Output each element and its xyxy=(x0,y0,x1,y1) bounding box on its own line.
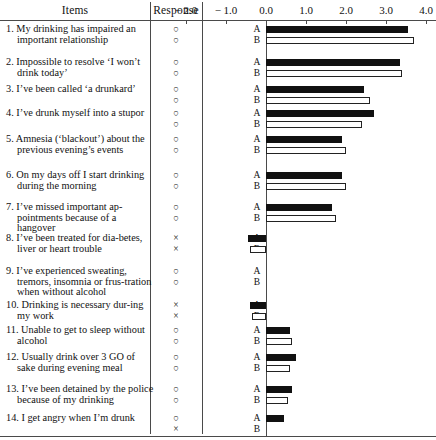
series-label-a: A xyxy=(252,170,262,180)
series-label-a: A xyxy=(252,134,262,144)
series-label-b: B xyxy=(252,95,262,105)
bar-line: A xyxy=(0,300,436,310)
bar-a xyxy=(266,327,290,334)
table-row: 10. Drinking is necessary dur-ing my wor… xyxy=(0,300,436,325)
table-row: 12. Usually drink over 3 GO of sake duri… xyxy=(0,352,436,384)
bar-line: A xyxy=(0,325,436,335)
bar-a xyxy=(250,302,266,309)
x-tick-label: − 1.0 xyxy=(215,4,238,16)
x-tick-label: 2.0 xyxy=(339,4,353,16)
bar-line: B xyxy=(0,336,436,346)
bar-b xyxy=(252,313,266,320)
bar-line: A xyxy=(0,24,436,34)
table-row: 1. My drinking has impaired an important… xyxy=(0,24,436,57)
bar-line: B xyxy=(0,277,436,287)
table-row: 6. On my days off I start drinking durin… xyxy=(0,170,436,202)
bar-line: B xyxy=(0,395,436,405)
bar-line: B xyxy=(0,35,436,45)
series-label-b: B xyxy=(252,145,262,155)
bar-b xyxy=(266,215,336,222)
table-row: 11. Unable to get to sleep without alcoh… xyxy=(0,325,436,352)
bar-b xyxy=(266,70,402,77)
chart-x-axis: − 2.0− 1.00.01.02.03.04.0 xyxy=(0,4,436,18)
bar-line: A xyxy=(0,266,436,276)
bar-a xyxy=(266,172,342,179)
table-row: 3. I’ve been called ‘a drunkard’○○AB xyxy=(0,84,436,108)
series-label-b: B xyxy=(252,277,262,287)
bar-b xyxy=(266,147,346,154)
series-label-a: A xyxy=(252,325,262,335)
x-tick-label: − 2.0 xyxy=(175,4,198,16)
series-label-a: A xyxy=(252,84,262,94)
table-row: 8. I’ve been treated for dia-betes, live… xyxy=(0,233,436,266)
bar-a xyxy=(266,386,292,393)
series-label-a: A xyxy=(252,24,262,34)
series-label-a: A xyxy=(252,352,262,362)
series-label-b: B xyxy=(252,68,262,78)
bar-b xyxy=(266,338,292,345)
bar-line: A xyxy=(0,352,436,362)
bar-line: B xyxy=(0,424,436,434)
series-label-b: B xyxy=(252,213,262,223)
bar-line: A xyxy=(0,84,436,94)
bar-a xyxy=(266,86,364,93)
table-row: 13. I’ve been detained by the police bec… xyxy=(0,384,436,413)
bar-a xyxy=(266,415,284,422)
bar-line: A xyxy=(0,233,436,243)
series-label-b: B xyxy=(252,119,262,129)
bar-a xyxy=(248,235,266,242)
series-label-b: B xyxy=(252,35,262,45)
bar-line: B xyxy=(0,119,436,129)
table-row: 4. I’ve drunk myself into a stupor○○AB xyxy=(0,108,436,134)
bar-a xyxy=(266,59,400,66)
x-tick-label: 0.0 xyxy=(259,4,273,16)
bar-line: A xyxy=(0,384,436,394)
survey-chart-sheet: Items Response − 2.0− 1.00.01.02.03.04.0… xyxy=(0,0,436,440)
series-label-a: A xyxy=(252,108,262,118)
bar-b xyxy=(266,121,362,128)
bar-line: A xyxy=(0,134,436,144)
bar-a xyxy=(266,136,342,143)
bar-line: A xyxy=(0,108,436,118)
series-label-b: B xyxy=(252,395,262,405)
bar-b xyxy=(266,97,370,104)
bar-line: A xyxy=(0,57,436,67)
bar-line: A xyxy=(0,170,436,180)
bar-b xyxy=(266,183,346,190)
bar-a xyxy=(266,204,332,211)
bar-b xyxy=(250,246,266,253)
bar-line: B xyxy=(0,145,436,155)
series-label-a: A xyxy=(252,202,262,212)
bar-b xyxy=(266,397,288,404)
bar-b xyxy=(266,365,290,372)
series-label-a: A xyxy=(252,57,262,67)
bottom-rule xyxy=(0,436,436,437)
x-tick-label: 3.0 xyxy=(379,4,393,16)
bar-line: B xyxy=(0,95,436,105)
table-row: 14. I get angry when I’m drunk○×AB xyxy=(0,413,436,436)
series-label-b: B xyxy=(252,424,262,434)
series-label-a: A xyxy=(252,384,262,394)
bar-b xyxy=(266,37,414,44)
bar-line: B xyxy=(0,181,436,191)
table-row: 9. I’ve experienced sweating, tremors, i… xyxy=(0,266,436,300)
table-row: 2. Impossible to resolve ‘I won’t drink … xyxy=(0,57,436,84)
bar-line: A xyxy=(0,202,436,212)
x-tick-label: 1.0 xyxy=(299,4,313,16)
series-label-b: B xyxy=(252,181,262,191)
bar-a xyxy=(266,26,408,33)
bar-line: B xyxy=(0,363,436,373)
series-label-b: B xyxy=(252,363,262,373)
bar-a xyxy=(266,354,296,361)
bar-a xyxy=(266,110,374,117)
series-label-a: A xyxy=(252,413,262,423)
bar-line: B xyxy=(0,311,436,321)
series-label-a: A xyxy=(252,266,262,276)
table-row: 7. I’ve missed important ap-pointments b… xyxy=(0,202,436,233)
table-row: 5. Amnesia (‘blackout’) about the previo… xyxy=(0,134,436,170)
bar-line: A xyxy=(0,413,436,423)
bar-line: B xyxy=(0,213,436,223)
bar-line: B xyxy=(0,68,436,78)
bar-line: B xyxy=(0,244,436,254)
series-label-b: B xyxy=(252,336,262,346)
